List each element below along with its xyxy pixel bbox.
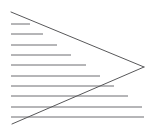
background-rect xyxy=(0,0,155,134)
triangle-hatch-svg xyxy=(0,0,155,134)
figure-canvas xyxy=(0,0,155,134)
